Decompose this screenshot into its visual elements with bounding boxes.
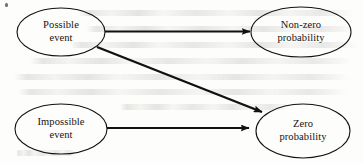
node-zero-probability[interactable] — [256, 104, 350, 158]
node-possible-event[interactable] — [17, 8, 105, 56]
diagram-canvas: Possible event Non-zero probability Impo… — [0, 0, 363, 164]
node-non-zero-probability[interactable] — [251, 7, 351, 57]
diagram-graphics — [0, 0, 363, 164]
node-impossible-event[interactable] — [15, 104, 107, 154]
edge-possible-to-zero — [97, 47, 262, 112]
